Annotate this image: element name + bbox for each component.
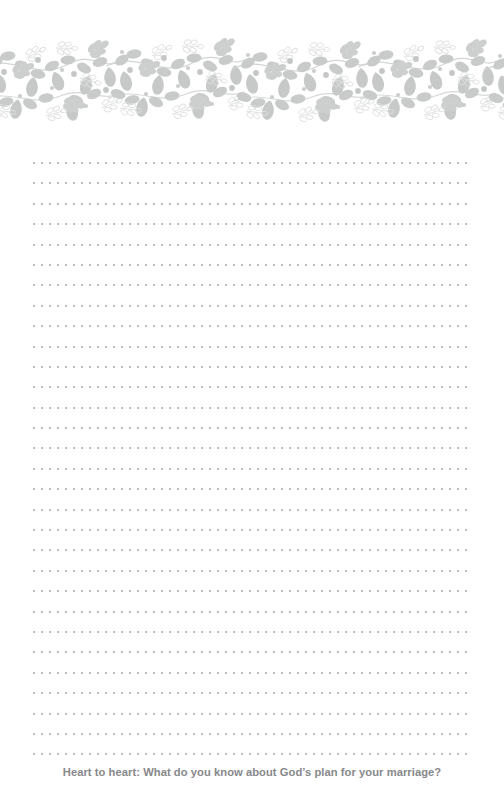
writing-line[interactable]: [33, 648, 473, 668]
writing-line[interactable]: [33, 343, 473, 363]
writing-line[interactable]: [33, 669, 473, 689]
writing-line[interactable]: [33, 526, 473, 546]
writing-line[interactable]: [33, 710, 473, 730]
botanical-pattern-icon: [0, 38, 504, 128]
writing-lines-area[interactable]: [33, 159, 473, 771]
writing-line[interactable]: [33, 220, 473, 240]
writing-line[interactable]: [33, 281, 473, 301]
journal-page: Heart to heart: What do you know about G…: [0, 0, 504, 810]
writing-line[interactable]: [33, 159, 473, 179]
footer-prompt-text: Heart to heart: What do you know about G…: [0, 766, 504, 778]
writing-line[interactable]: [33, 363, 473, 383]
writing-line[interactable]: [33, 179, 473, 199]
writing-line[interactable]: [33, 689, 473, 709]
writing-line[interactable]: [33, 730, 473, 750]
botanical-leaf-border-banner: [0, 38, 504, 128]
writing-line[interactable]: [33, 465, 473, 485]
writing-line[interactable]: [33, 587, 473, 607]
writing-line[interactable]: [33, 302, 473, 322]
writing-line[interactable]: [33, 567, 473, 587]
writing-line[interactable]: [33, 261, 473, 281]
writing-line[interactable]: [33, 608, 473, 628]
writing-line[interactable]: [33, 241, 473, 261]
writing-line[interactable]: [33, 546, 473, 566]
writing-line[interactable]: [33, 444, 473, 464]
writing-line[interactable]: [33, 485, 473, 505]
writing-line[interactable]: [33, 506, 473, 526]
writing-line[interactable]: [33, 322, 473, 342]
writing-line[interactable]: [33, 404, 473, 424]
writing-line[interactable]: [33, 424, 473, 444]
writing-line[interactable]: [33, 200, 473, 220]
writing-line[interactable]: [33, 628, 473, 648]
writing-line[interactable]: [33, 383, 473, 403]
